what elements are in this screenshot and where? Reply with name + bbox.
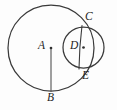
- label-point-e: E: [82, 70, 89, 82]
- figure-canvas: [0, 0, 117, 110]
- label-point-b: B: [47, 92, 54, 104]
- point-d-dot: [82, 46, 85, 49]
- chord-ce: [79, 26, 82, 70]
- geometry-figure: A B C D E: [0, 0, 117, 110]
- point-a-dot: [50, 47, 53, 50]
- label-point-d: D: [70, 40, 78, 52]
- label-point-c: C: [85, 11, 93, 23]
- label-point-a: A: [38, 40, 45, 52]
